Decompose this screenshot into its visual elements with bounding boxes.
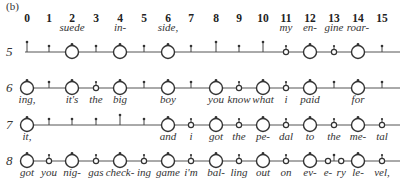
offbeat-syllable-circle xyxy=(325,158,330,163)
unstressed-syllable-circle xyxy=(46,158,51,163)
unstressed-syllable-circle xyxy=(331,122,336,127)
stress-dot xyxy=(262,79,265,82)
tick-dot xyxy=(48,81,51,84)
row-number: 8 xyxy=(6,153,13,168)
stress-dot xyxy=(167,152,170,155)
stress-dot xyxy=(26,152,29,155)
stress-dot xyxy=(167,79,170,82)
lyric-syllable: on xyxy=(281,166,293,178)
unstressed-syllable-circle xyxy=(93,158,98,163)
lyric-syllable: the xyxy=(89,93,103,105)
tick-dot xyxy=(48,118,51,121)
column-number-5: 5 xyxy=(141,12,147,24)
stress-dot xyxy=(119,152,122,155)
tick-dot xyxy=(119,114,122,117)
stress-dot xyxy=(215,152,218,155)
tick-dot xyxy=(190,45,193,48)
lyric-syllable: to xyxy=(306,130,315,142)
lyric-syllable: check- xyxy=(106,166,135,178)
offbeat-syllable-circle xyxy=(339,158,344,163)
lyric-syllable: ing xyxy=(137,166,152,178)
tick-dot xyxy=(95,45,98,48)
stress-dot xyxy=(357,43,360,46)
column-number-3: 3 xyxy=(93,12,99,24)
lyric-syllable: i'm xyxy=(184,166,197,178)
unstressed-syllable-circle xyxy=(188,122,193,127)
column-number-15: 15 xyxy=(376,12,388,24)
lyric-syllable: side, xyxy=(158,21,179,33)
lyric-syllable: know xyxy=(227,93,251,105)
grid-row-6: 6ing,it'sthebigboyyouknowwhatipaidfor xyxy=(6,79,400,105)
tick-dot xyxy=(190,81,193,84)
lyric-syllable: suede xyxy=(59,21,84,33)
lyric-syllable: it, xyxy=(23,130,32,142)
stressed-syllable-circle xyxy=(114,46,127,59)
lyric-syllable: out xyxy=(256,166,271,178)
column-number-1: 1 xyxy=(46,12,52,24)
lyric-syllable: vel, xyxy=(374,166,390,178)
tick-dot xyxy=(143,81,146,84)
lyric-syllable: i xyxy=(284,93,287,105)
tick-dot xyxy=(381,81,384,84)
lyric-syllable: ev- xyxy=(303,166,317,178)
tick-dot xyxy=(333,81,336,84)
stress-dot xyxy=(71,152,74,155)
tick-dot xyxy=(381,45,384,48)
lyric-syllable: me- xyxy=(350,130,367,142)
lyric-syllable: and xyxy=(160,130,177,142)
stress-dot xyxy=(357,152,360,155)
stress-dot xyxy=(309,152,312,155)
column-number-9: 9 xyxy=(236,12,242,24)
tick-dot xyxy=(215,41,218,44)
lyric-syllable: the xyxy=(232,130,246,142)
stress-dot xyxy=(262,152,265,155)
stress-dot xyxy=(309,43,312,46)
lyric-syllable: paid xyxy=(299,93,320,105)
stress-dot xyxy=(357,116,360,119)
lyric-syllable: roar- xyxy=(347,21,370,33)
tick-dot xyxy=(48,45,51,48)
grid-rows: 5suedein-side,myen-gineroar-6ing,it'sthe… xyxy=(6,21,400,178)
lyric-syllable: ling xyxy=(230,166,248,178)
tick-dot xyxy=(143,45,146,48)
tick-dot xyxy=(143,118,146,121)
stress-dot xyxy=(167,43,170,46)
lyric-syllable: gine xyxy=(325,21,344,33)
row-number: 7 xyxy=(6,117,13,132)
lyric-syllable: got xyxy=(209,130,224,142)
lyric-syllable: got xyxy=(20,166,35,178)
unstressed-syllable-circle xyxy=(141,158,146,163)
lyric-syllable: dal xyxy=(279,130,293,142)
stress-dot xyxy=(167,116,170,119)
stressed-syllable-circle xyxy=(162,46,175,59)
unstressed-syllable-circle xyxy=(236,122,241,127)
grid-row-7: 7it,andigotthepe-daltotheme-tal xyxy=(6,114,400,142)
lyric-syllable: my xyxy=(280,21,293,33)
unstressed-syllable-circle xyxy=(236,158,241,163)
stressed-syllable-circle xyxy=(352,46,365,59)
panel-label: (b) xyxy=(6,0,19,13)
unstressed-syllable-circle xyxy=(379,122,384,127)
lyric-syllable: game xyxy=(156,166,180,178)
unstressed-syllable-circle xyxy=(331,49,336,54)
column-number-10: 10 xyxy=(257,12,269,24)
tick-dot xyxy=(262,41,265,44)
unstressed-syllable-circle xyxy=(283,85,288,90)
stress-dot xyxy=(262,116,265,119)
stress-dot xyxy=(26,116,29,119)
lyric-syllable: you xyxy=(207,93,224,105)
row-number: 5 xyxy=(6,44,13,59)
column-number-0: 0 xyxy=(24,12,30,24)
lyric-syllable: ing, xyxy=(19,93,36,105)
lyric-syllable: it's xyxy=(66,93,79,105)
lyric-syllable: pe- xyxy=(255,130,270,142)
lyric-syllable: nig- xyxy=(63,166,81,178)
stress-dot xyxy=(119,79,122,82)
lyric-syllable: bal- xyxy=(207,166,225,178)
unstressed-syllable-circle xyxy=(283,49,288,54)
lyric-syllable: le- xyxy=(352,166,364,178)
lyric-syllable: the xyxy=(327,130,341,142)
grid-row-8: 8gotyounig-gascheck-inggamei'mbal-lingou… xyxy=(6,152,400,178)
stress-dot xyxy=(71,79,74,82)
lyric-syllable: gas xyxy=(88,166,103,178)
